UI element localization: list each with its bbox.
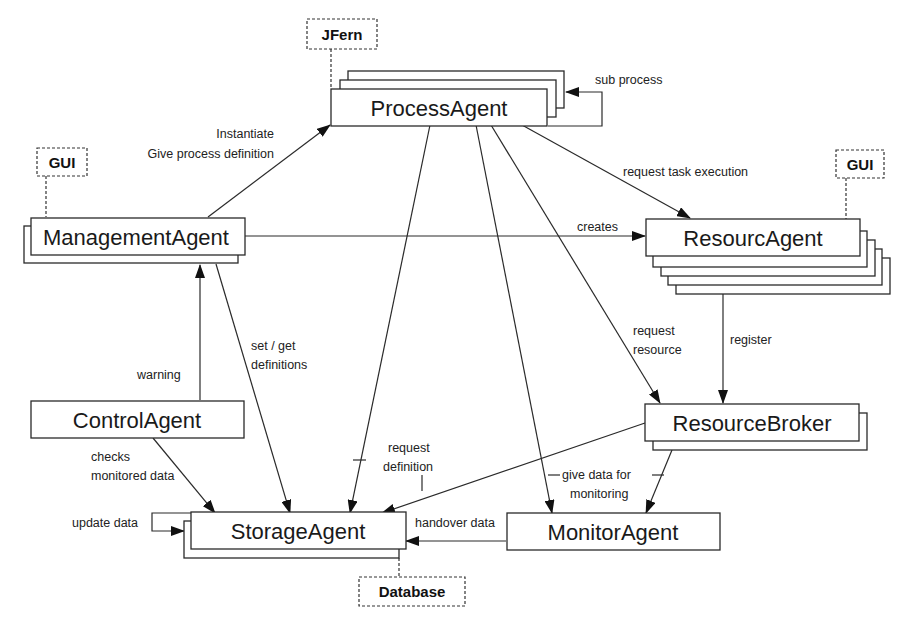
agent-architecture-diagram: JFern GUI GUI Database ProcessAgent Mana… — [0, 0, 910, 625]
gui-right-label: GUI — [847, 156, 874, 173]
database-label: Database — [379, 583, 446, 600]
node-control-agent[interactable]: ControlAgent — [31, 401, 244, 438]
label-request-resource-2: resource — [633, 343, 682, 357]
process-agent-label: ProcessAgent — [371, 96, 508, 121]
label-give-process-definition: Give process definition — [148, 147, 275, 161]
label-checks-1: checks — [91, 450, 130, 464]
node-resourc-agent[interactable]: ResourcAgent — [646, 219, 890, 294]
gui-left-external: GUI — [37, 148, 87, 217]
label-request-definition-2: definition — [383, 460, 433, 474]
database-external: Database — [359, 558, 465, 606]
edge-give-data-for-monitoring — [646, 450, 672, 513]
label-instantiate: Instantiate — [216, 127, 274, 141]
monitor-agent-label: MonitorAgent — [548, 520, 679, 545]
label-sub-process: sub process — [595, 73, 662, 87]
label-request-task-execution: request task execution — [623, 165, 748, 179]
label-warning: warning — [136, 368, 181, 382]
label-request-definition-1: request — [388, 441, 430, 455]
control-agent-label: ControlAgent — [73, 408, 201, 433]
node-resource-broker[interactable]: ResourceBroker — [645, 404, 867, 450]
resource-broker-label: ResourceBroker — [673, 411, 832, 436]
edge-set-get-definitions — [216, 264, 290, 513]
label-set-get-2: definitions — [251, 358, 307, 372]
jfern-label: JFern — [322, 26, 363, 43]
label-creates: creates — [577, 220, 618, 234]
label-request-resource-1: request — [633, 324, 675, 338]
resource-agent-label: ResourcAgent — [683, 226, 822, 251]
label-checks-2: monitored data — [91, 469, 174, 483]
label-update-data: update data — [72, 516, 138, 530]
node-management-agent[interactable]: ManagementAgent — [24, 218, 245, 263]
gui-right-external: GUI — [836, 150, 884, 219]
label-handover-data: handover data — [415, 516, 495, 530]
node-monitor-agent[interactable]: MonitorAgent — [507, 513, 720, 550]
label-register: register — [730, 333, 772, 347]
gui-left-label: GUI — [49, 154, 76, 171]
node-process-agent[interactable]: ProcessAgent — [331, 71, 564, 126]
node-storage-agent[interactable]: StorageAgent — [184, 512, 406, 558]
label-set-get-1: set / get — [251, 339, 296, 353]
storage-agent-label: StorageAgent — [231, 519, 366, 544]
label-give-data-1: give data for — [562, 468, 631, 482]
label-give-data-2: monitoring — [570, 487, 628, 501]
management-agent-label: ManagementAgent — [43, 225, 229, 250]
edge-process-monitor — [476, 125, 552, 513]
